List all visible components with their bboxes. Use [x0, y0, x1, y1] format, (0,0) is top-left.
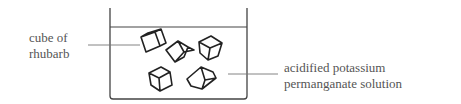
rhubarb-cube	[199, 36, 222, 60]
rhubarb-cube	[187, 67, 216, 89]
solution-label-line-1: acidified potassium	[284, 60, 402, 76]
rhubarb-cube	[166, 41, 194, 62]
cube-label: cube of rhubarb	[29, 30, 69, 62]
solution-label: acidified potassium permanganate solutio…	[284, 60, 402, 92]
beaker-outline	[110, 8, 247, 99]
cube-label-line-2: rhubarb	[29, 46, 69, 62]
cube-label-line-1: cube of	[29, 30, 69, 46]
rhubarb-cube	[141, 29, 166, 52]
rhubarb-cube	[149, 67, 172, 91]
solution-label-line-2: permanganate solution	[284, 76, 402, 92]
